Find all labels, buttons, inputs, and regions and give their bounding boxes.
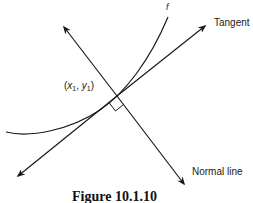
normal-line-label: Normal line: [192, 166, 243, 177]
tangent-line: [117, 26, 205, 96]
point-of-tangency-label: (x1, y1): [64, 80, 94, 92]
tangent-label: Tangent: [214, 17, 250, 28]
figure-caption: Figure 10.1.10: [72, 189, 157, 203]
tangent-line-lower: [18, 96, 117, 176]
paren-close: ): [91, 80, 94, 91]
normal-line-lower: [117, 96, 184, 184]
curve-label: f: [166, 2, 169, 12]
tangent-normal-diagram: f Tangent Normal line (x1, y1) Figure 10…: [0, 0, 253, 203]
right-angle-marker: [109, 103, 124, 112]
